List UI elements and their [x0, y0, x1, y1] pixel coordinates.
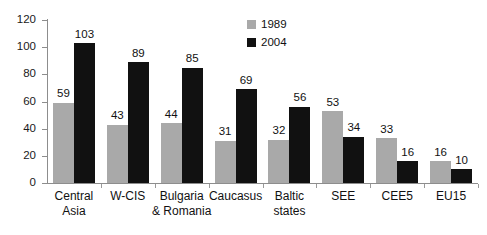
legend-item-1989: 1989 [247, 17, 287, 32]
bar-2004 [182, 68, 203, 183]
bar-1989 [107, 125, 128, 183]
bar-value-label: 10 [446, 155, 477, 167]
bar-1989 [268, 140, 289, 183]
bar-value-label: 53 [317, 97, 348, 109]
x-axis-category-label: EU15 [418, 189, 484, 204]
x-axis-tick [101, 184, 102, 188]
bar-value-label: 33 [371, 124, 402, 136]
bar-1989 [215, 141, 236, 183]
bar-1989 [376, 138, 397, 183]
y-axis-tick-label: 20 [0, 150, 36, 162]
x-axis-tick [316, 184, 317, 188]
y-axis-tick-label: 40 [0, 123, 36, 135]
legend-label-2004: 2004 [261, 37, 287, 49]
y-axis-tick-label: 0 [0, 177, 36, 189]
bar-value-label: 85 [177, 53, 208, 65]
bar-chart: 120100806040200 591034389448531693256533… [0, 0, 487, 235]
y-axis-tick-label: 120 [0, 14, 36, 26]
bar-group: 3316 [370, 20, 424, 183]
y-axis-tick-label: 80 [0, 68, 36, 80]
legend-swatch-2004-icon [247, 38, 256, 47]
bar-value-label: 16 [392, 147, 423, 159]
legend-swatch-1989-icon [247, 20, 256, 29]
bar-2004 [343, 137, 364, 183]
y-axis-tick-label: 60 [0, 96, 36, 108]
bar-group: 4389 [101, 20, 155, 183]
bar-value-label: 34 [338, 122, 369, 134]
legend: 1989 2004 [247, 17, 287, 53]
legend-item-2004: 2004 [247, 35, 287, 50]
bar-2004 [74, 43, 95, 183]
bar-value-label: 69 [231, 75, 262, 87]
bar-group: 1610 [424, 20, 478, 183]
bar-group: 4485 [155, 20, 209, 183]
x-axis-tick [209, 184, 210, 188]
y-axis-tick-label: 100 [0, 41, 36, 53]
bar-1989 [53, 103, 74, 183]
x-axis-tick [478, 184, 479, 188]
bar-group: 5334 [316, 20, 370, 183]
bar-1989 [161, 123, 182, 183]
bar-group: 59103 [47, 20, 101, 183]
x-axis-tick [263, 184, 264, 188]
bar-value-label: 103 [69, 29, 100, 41]
bar-value-label: 89 [123, 48, 154, 60]
bar-2004 [289, 107, 310, 183]
bar-2004 [397, 161, 418, 183]
bar-2004 [451, 169, 472, 183]
bar-2004 [128, 62, 149, 183]
bar-value-label: 56 [284, 92, 315, 104]
legend-label-1989: 1989 [261, 19, 287, 31]
x-axis-tick [370, 184, 371, 188]
x-axis-tick [155, 184, 156, 188]
x-axis-tick [424, 184, 425, 188]
bar-2004 [236, 89, 257, 183]
